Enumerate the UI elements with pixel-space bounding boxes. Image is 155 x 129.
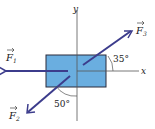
svg-text:3: 3	[143, 30, 147, 37]
force-f3-label: F 3	[135, 21, 147, 37]
y-axis-label: y	[72, 4, 79, 14]
angle-label-50: 50°	[54, 99, 70, 109]
force-f1-label: F 1	[5, 48, 17, 64]
svg-text:2: 2	[15, 115, 20, 122]
x-axis-label: x	[141, 66, 146, 76]
svg-text:1: 1	[13, 57, 17, 64]
angle-arc-50	[56, 86, 77, 96]
force-diagram: y x F 1 F 3 F 2 35° 50°	[0, 0, 155, 129]
force-f2-label: F 2	[8, 106, 20, 122]
angle-label-35: 35°	[113, 54, 129, 64]
